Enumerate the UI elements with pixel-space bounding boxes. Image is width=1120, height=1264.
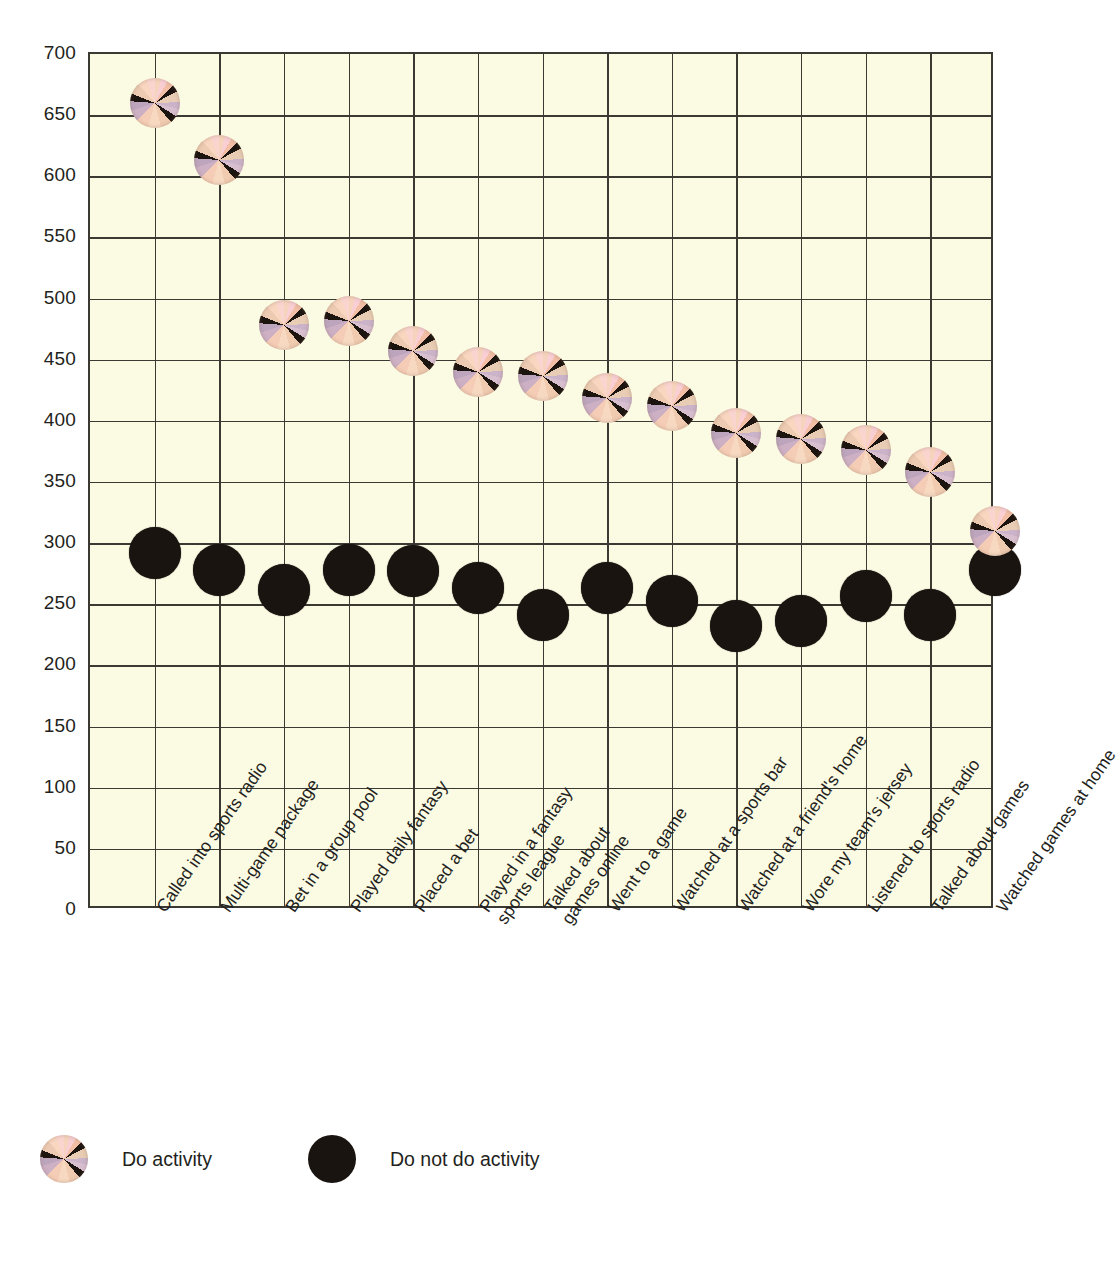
black-circle-icon	[581, 562, 633, 614]
legend-label: Do activity	[122, 1148, 212, 1171]
y-axis-tick-label: 550	[4, 226, 76, 245]
black-circle-icon	[840, 570, 892, 622]
gridline-vertical	[607, 54, 608, 906]
x-axis-tick-label-line: Watched games at home	[992, 745, 1120, 915]
y-axis-tick-label: 600	[4, 165, 76, 184]
gridline-vertical	[672, 54, 673, 906]
pinwheel-icon	[453, 347, 503, 397]
pinwheel-icon	[841, 425, 891, 475]
black-circle-icon	[258, 564, 310, 616]
pinwheel-icon	[970, 506, 1020, 556]
y-axis-tick-label: 200	[4, 654, 76, 673]
pinwheel-icon	[647, 381, 697, 431]
gridline-vertical	[478, 54, 479, 906]
pinwheel-icon	[194, 135, 244, 185]
gridline-horizontal	[90, 115, 991, 116]
black-circle-icon	[775, 595, 827, 647]
gridline-horizontal	[90, 788, 991, 789]
y-axis-tick-label: 500	[4, 288, 76, 307]
black-circle-icon	[710, 600, 762, 652]
gridline-vertical	[801, 54, 802, 906]
gridline-horizontal	[90, 482, 991, 483]
gridline-vertical	[736, 54, 737, 906]
black-circle-icon	[517, 589, 569, 641]
y-axis-tick-label: 450	[4, 349, 76, 368]
black-circle-icon	[387, 545, 439, 597]
black-circle-icon	[323, 544, 375, 596]
y-axis-tick-label: 50	[4, 838, 76, 857]
pinwheel-icon	[518, 351, 568, 401]
pinwheel-icon	[776, 414, 826, 464]
gridline-horizontal	[90, 421, 991, 422]
pinwheel-icon	[905, 447, 955, 497]
pinwheel-icon	[582, 373, 632, 423]
plot-area	[88, 52, 993, 908]
chart-legend: Do activityDo not do activity	[40, 1128, 1000, 1198]
y-axis-tick-label: 100	[4, 777, 76, 796]
y-axis-tick-label: 650	[4, 104, 76, 123]
black-circle-icon	[452, 562, 504, 614]
gridline-horizontal	[90, 727, 991, 728]
y-axis-tick-label: 250	[4, 593, 76, 612]
y-axis-tick-label: 700	[4, 43, 76, 62]
gridline-vertical	[866, 54, 867, 906]
gridline-vertical	[155, 54, 156, 906]
pinwheel-icon	[259, 300, 309, 350]
y-axis-tick-label: 350	[4, 471, 76, 490]
legend-label: Do not do activity	[390, 1148, 540, 1171]
black-circle-icon	[308, 1135, 356, 1183]
gridline-horizontal	[90, 299, 991, 300]
black-circle-icon	[646, 575, 698, 627]
gridline-vertical	[349, 54, 350, 906]
pinwheel-icon	[324, 296, 374, 346]
legend-entry: Do activity	[40, 1128, 212, 1190]
pinwheel-icon	[130, 78, 180, 128]
gridline-horizontal	[90, 665, 991, 666]
gridline-vertical	[284, 54, 285, 906]
gridline-vertical	[413, 54, 414, 906]
y-axis-tick-label: 400	[4, 410, 76, 429]
y-axis: 7006506005505004504003503002502001501005…	[0, 52, 76, 908]
gridline-vertical	[543, 54, 544, 906]
x-axis-tick-label: Watched games at home	[992, 745, 1120, 916]
black-circle-icon	[193, 544, 245, 596]
black-circle-icon	[904, 589, 956, 641]
pinwheel-icon	[388, 326, 438, 376]
y-axis-tick-label: 300	[4, 532, 76, 551]
pinwheel-icon	[711, 408, 761, 458]
black-circle-icon	[129, 527, 181, 579]
x-axis: Called into sports radioMulti-game packa…	[0, 908, 1046, 1128]
legend-entry: Do not do activity	[308, 1128, 540, 1190]
pinwheel-icon	[40, 1135, 88, 1183]
y-axis-tick-label: 150	[4, 716, 76, 735]
gridline-horizontal	[90, 237, 991, 238]
